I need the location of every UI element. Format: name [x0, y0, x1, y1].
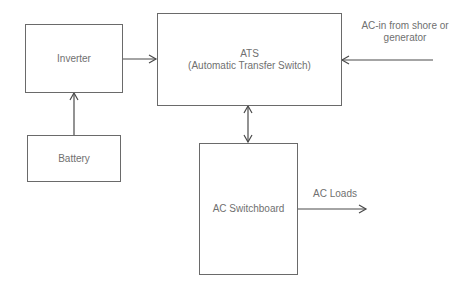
- battery-label: Battery: [58, 153, 90, 165]
- inverter-box: Inverter: [25, 24, 123, 93]
- ac-switchboard-box: AC Switchboard: [199, 143, 298, 275]
- ats-sublabel: (Automatic Transfer Switch): [188, 60, 311, 72]
- ac-in-label-line1: AC-in from shore or: [350, 20, 460, 32]
- battery-box: Battery: [27, 135, 121, 182]
- ats-label: ATS: [240, 48, 259, 60]
- ac-switchboard-label: AC Switchboard: [213, 203, 285, 215]
- ats-box: ATS (Automatic Transfer Switch): [157, 13, 342, 106]
- inverter-label: Inverter: [57, 53, 91, 65]
- ac-loads-label: AC Loads: [305, 188, 365, 200]
- ac-in-label: AC-in from shore or generator: [350, 20, 460, 44]
- ac-loads-text: AC Loads: [313, 188, 357, 199]
- ac-in-label-line2: generator: [350, 32, 460, 44]
